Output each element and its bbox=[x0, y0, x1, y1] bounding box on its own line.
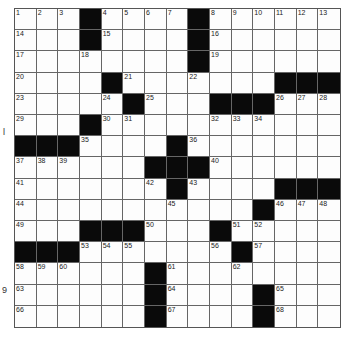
grid-cell[interactable]: 35 bbox=[80, 136, 102, 157]
grid-cell[interactable] bbox=[232, 73, 254, 94]
grid-cell[interactable]: 62 bbox=[232, 263, 254, 284]
grid-cell[interactable] bbox=[210, 179, 232, 200]
grid-cell[interactable] bbox=[102, 263, 124, 284]
grid-cell[interactable] bbox=[210, 200, 232, 221]
grid-cell[interactable] bbox=[58, 73, 80, 94]
grid-cell[interactable]: 31 bbox=[123, 115, 145, 136]
grid-cell[interactable] bbox=[58, 30, 80, 51]
grid-cell[interactable] bbox=[297, 221, 319, 242]
grid-cell[interactable]: 36 bbox=[188, 136, 210, 157]
grid-cell[interactable]: 54 bbox=[102, 242, 124, 263]
grid-cell[interactable] bbox=[188, 263, 210, 284]
grid-cell[interactable]: 8 bbox=[210, 9, 232, 30]
grid-cell[interactable]: 39 bbox=[58, 157, 80, 178]
grid-cell[interactable]: 66 bbox=[15, 306, 37, 327]
grid-cell[interactable]: 56 bbox=[210, 242, 232, 263]
grid-cell[interactable] bbox=[102, 157, 124, 178]
grid-cell[interactable]: 4 bbox=[102, 9, 124, 30]
grid-cell[interactable]: 34 bbox=[253, 115, 275, 136]
grid-cell[interactable] bbox=[123, 306, 145, 327]
grid-cell[interactable]: 45 bbox=[167, 200, 189, 221]
grid-cell[interactable] bbox=[318, 30, 340, 51]
grid-cell[interactable] bbox=[318, 221, 340, 242]
grid-cell[interactable] bbox=[275, 115, 297, 136]
grid-cell[interactable]: 48 bbox=[318, 200, 340, 221]
grid-cell[interactable] bbox=[297, 242, 319, 263]
grid-cell[interactable] bbox=[297, 157, 319, 178]
grid-cell[interactable]: 2 bbox=[37, 9, 59, 30]
grid-cell[interactable] bbox=[37, 94, 59, 115]
grid-cell[interactable] bbox=[80, 157, 102, 178]
grid-cell[interactable]: 16 bbox=[210, 30, 232, 51]
grid-cell[interactable] bbox=[58, 200, 80, 221]
grid-cell[interactable]: 47 bbox=[297, 200, 319, 221]
grid-cell[interactable] bbox=[123, 51, 145, 72]
grid-cell[interactable] bbox=[318, 157, 340, 178]
grid-cell[interactable] bbox=[145, 115, 167, 136]
grid-cell[interactable] bbox=[210, 136, 232, 157]
grid-cell[interactable] bbox=[167, 73, 189, 94]
grid-cell[interactable] bbox=[37, 285, 59, 306]
grid-cell[interactable] bbox=[37, 221, 59, 242]
grid-cell[interactable]: 22 bbox=[188, 73, 210, 94]
grid-cell[interactable] bbox=[275, 30, 297, 51]
grid-cell[interactable] bbox=[167, 115, 189, 136]
grid-cell[interactable] bbox=[123, 136, 145, 157]
grid-cell[interactable] bbox=[318, 51, 340, 72]
grid-cell[interactable]: 37 bbox=[15, 157, 37, 178]
grid-cell[interactable] bbox=[37, 73, 59, 94]
grid-cell[interactable] bbox=[275, 157, 297, 178]
grid-cell[interactable] bbox=[123, 285, 145, 306]
grid-cell[interactable]: 25 bbox=[145, 94, 167, 115]
grid-cell[interactable] bbox=[102, 200, 124, 221]
grid-cell[interactable] bbox=[232, 285, 254, 306]
grid-cell[interactable] bbox=[275, 263, 297, 284]
grid-cell[interactable] bbox=[123, 200, 145, 221]
grid-cell[interactable]: 63 bbox=[15, 285, 37, 306]
grid-cell[interactable] bbox=[145, 30, 167, 51]
grid-cell[interactable]: 67 bbox=[167, 306, 189, 327]
grid-cell[interactable]: 51 bbox=[232, 221, 254, 242]
grid-cell[interactable] bbox=[58, 285, 80, 306]
grid-cell[interactable] bbox=[297, 30, 319, 51]
grid-cell[interactable]: 33 bbox=[232, 115, 254, 136]
grid-cell[interactable] bbox=[253, 30, 275, 51]
grid-cell[interactable] bbox=[275, 242, 297, 263]
grid-cell[interactable]: 60 bbox=[58, 263, 80, 284]
grid-cell[interactable] bbox=[58, 221, 80, 242]
grid-cell[interactable]: 15 bbox=[102, 30, 124, 51]
grid-cell[interactable] bbox=[188, 221, 210, 242]
grid-cell[interactable]: 26 bbox=[275, 94, 297, 115]
grid-cell[interactable] bbox=[253, 179, 275, 200]
grid-cell[interactable] bbox=[253, 73, 275, 94]
grid-cell[interactable] bbox=[188, 115, 210, 136]
grid-cell[interactable]: 29 bbox=[15, 115, 37, 136]
grid-cell[interactable]: 13 bbox=[318, 9, 340, 30]
grid-cell[interactable]: 32 bbox=[210, 115, 232, 136]
grid-cell[interactable]: 17 bbox=[15, 51, 37, 72]
grid-cell[interactable]: 38 bbox=[37, 157, 59, 178]
grid-cell[interactable] bbox=[80, 94, 102, 115]
grid-cell[interactable]: 55 bbox=[123, 242, 145, 263]
grid-cell[interactable] bbox=[232, 200, 254, 221]
grid-cell[interactable] bbox=[318, 136, 340, 157]
grid-cell[interactable] bbox=[123, 30, 145, 51]
grid-cell[interactable] bbox=[102, 179, 124, 200]
grid-cell[interactable] bbox=[318, 306, 340, 327]
grid-cell[interactable] bbox=[232, 51, 254, 72]
grid-cell[interactable] bbox=[275, 136, 297, 157]
grid-cell[interactable]: 7 bbox=[167, 9, 189, 30]
grid-cell[interactable] bbox=[188, 306, 210, 327]
grid-cell[interactable] bbox=[123, 179, 145, 200]
grid-cell[interactable] bbox=[188, 94, 210, 115]
grid-cell[interactable] bbox=[253, 51, 275, 72]
grid-cell[interactable]: 11 bbox=[275, 9, 297, 30]
grid-cell[interactable]: 43 bbox=[188, 179, 210, 200]
grid-cell[interactable] bbox=[167, 94, 189, 115]
grid-cell[interactable] bbox=[37, 200, 59, 221]
grid-cell[interactable]: 57 bbox=[253, 242, 275, 263]
grid-cell[interactable]: 19 bbox=[210, 51, 232, 72]
grid-cell[interactable] bbox=[253, 263, 275, 284]
grid-cell[interactable] bbox=[145, 242, 167, 263]
grid-cell[interactable]: 18 bbox=[80, 51, 102, 72]
